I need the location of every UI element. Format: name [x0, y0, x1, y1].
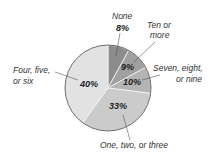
label-seven-line1: Seven, eight,	[153, 64, 203, 73]
label-ten-line2: more	[150, 31, 169, 40]
leader-ten	[134, 42, 155, 62]
pct-four: 40%	[80, 79, 98, 89]
pct-ten: 9%	[121, 62, 134, 72]
pct-seven: 10%	[123, 77, 141, 87]
label-four-line2: or six	[13, 77, 33, 86]
pct-one: 33%	[109, 101, 127, 111]
label-none: None	[112, 12, 132, 21]
label-ten-line1: Ten or	[147, 21, 171, 30]
label-one: One, two, or three	[100, 141, 168, 150]
label-four-line1: Four, five,	[13, 66, 50, 75]
label-seven-line2: or nine	[176, 75, 202, 84]
pct-none-outside: 8%	[116, 23, 129, 33]
